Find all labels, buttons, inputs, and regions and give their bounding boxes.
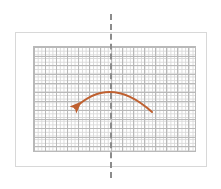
figure-canvas [0, 0, 221, 189]
graph-grid [33, 46, 196, 152]
axis-of-symmetry [110, 14, 112, 178]
